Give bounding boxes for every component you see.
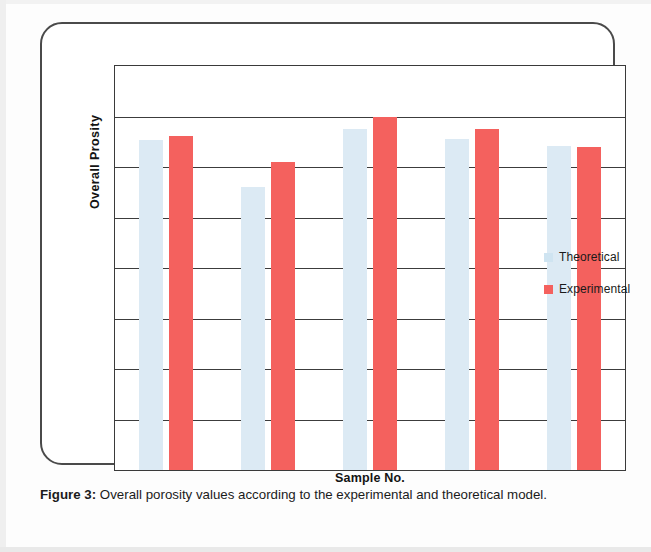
legend-label-experimental: Experimental: [559, 282, 630, 296]
legend-swatch-experimental-icon: [544, 285, 553, 294]
y-axis-title: Overall Prosity: [88, 115, 102, 209]
chart-legend: Theoretical Experimental: [544, 246, 630, 310]
bar-experimental-sample-3: [373, 117, 397, 470]
bar-experimental-sample-2: [271, 162, 295, 470]
legend-item-theoretical: Theoretical: [544, 246, 630, 268]
figure-caption: Figure 3: Overall porosity values accord…: [40, 484, 615, 506]
bar-theoretical-sample-4: [445, 139, 469, 470]
x-axis-title: Sample No.: [114, 471, 626, 485]
figure-caption-label: Figure 3:: [40, 487, 96, 502]
legend-swatch-theoretical-icon: [544, 253, 553, 262]
bar-experimental-sample-1: [169, 136, 193, 471]
scan-edge-bottom: [0, 547, 651, 552]
legend-label-theoretical: Theoretical: [559, 250, 619, 264]
bar-theoretical-sample-3: [343, 129, 367, 470]
legend-item-experimental: Experimental: [544, 278, 630, 300]
figure-frame: Overall Prosity Sample No. Theoretical E…: [40, 22, 615, 465]
figure-caption-text: Overall porosity values according to the…: [100, 487, 547, 502]
scan-edge-left: [0, 0, 6, 552]
figure-page: Overall Prosity Sample No. Theoretical E…: [0, 0, 651, 552]
bar-experimental-sample-4: [475, 129, 499, 470]
bar-theoretical-sample-1: [139, 140, 163, 470]
bar-theoretical-sample-2: [241, 187, 265, 470]
scan-edge-top: [0, 0, 651, 4]
